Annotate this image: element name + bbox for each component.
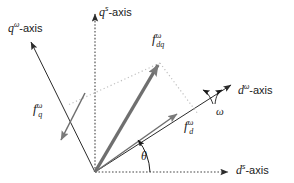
f-dq-omega-vector [95, 65, 158, 172]
q-omega-axis-suffix: -axis [19, 22, 42, 34]
f-d-omega-subscript: d [189, 127, 193, 136]
d-omega-axis-suffix: -axis [249, 84, 272, 96]
f-q-omega-superscript: ω [37, 101, 43, 110]
f-d-omega-vector [95, 114, 177, 172]
q-omega-axis-label: qω-axis [8, 22, 43, 34]
omega-symbol-label: ω [216, 106, 224, 117]
f-d-omega-superscript: ω [188, 118, 194, 127]
d-s-axis-suffix: -axis [245, 164, 268, 176]
f-q-omega-label: fωq [33, 102, 42, 115]
f-d-omega-label: fωd [184, 119, 193, 132]
f-dq-omega-superscript: ω [156, 31, 162, 40]
d-s-axis-label: ds-axis [236, 164, 269, 176]
q-s-axis-suffix: -axis [108, 6, 131, 18]
d-omega-axis-label: dω-axis [238, 84, 273, 96]
omega-rotation-arrow-right [215, 90, 222, 104]
f-q-omega-subscript: q [38, 110, 42, 119]
f-dq-omega-label: fωdq [152, 32, 164, 45]
q-s-axis-label: qs-axis [99, 6, 132, 18]
f-q-omega-vector [61, 93, 85, 140]
f-dq-omega-subscript: dq [156, 40, 164, 49]
projection-line-to-d-axis [160, 63, 198, 114]
vector-diagram-figure: qω-axis qs-axis dω-axis ds-axis fωdq fωd… [0, 0, 294, 183]
theta-symbol-label: θ [141, 150, 147, 162]
